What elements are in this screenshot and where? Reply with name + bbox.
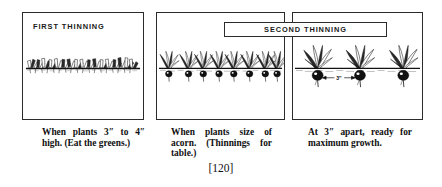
caption-first-thinning: When plants 3″ to 4″ high. (Eat the gree…: [42, 127, 145, 148]
panel-label-second-thinning-box: SECOND THINNING: [224, 22, 387, 37]
page-number: [120]: [0, 162, 442, 174]
panel-label-second-thinning: SECOND THINNING: [264, 25, 347, 34]
thinning-illustration-figure: 3″ FIRST THINNING SECOND THINNING When p…: [0, 0, 442, 187]
caption-final-spacing: At 3″ apart, ready for maximum growth.: [308, 127, 412, 148]
caption-second-thinning: When plants size of acorn. (Thinnings fo…: [171, 127, 272, 159]
panel-label-first-thinning: FIRST THINNING: [33, 22, 105, 31]
spacing-dimension-label: 3″: [336, 75, 342, 81]
